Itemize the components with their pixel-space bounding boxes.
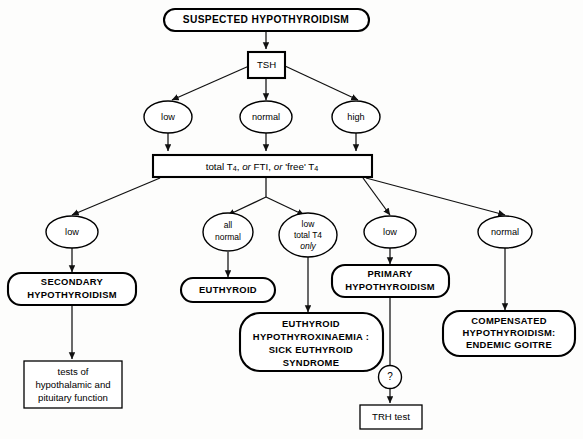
node-label-tests-line2: hypothalamic and xyxy=(35,379,110,390)
node-label-branch-normal: normal xyxy=(491,227,519,237)
node-label-primary-line2: HYPOTHYROIDISM xyxy=(345,281,435,292)
node-label-secondary-line2: HYPOTHYROIDISM xyxy=(27,289,117,300)
connector-panel-to-allnormal xyxy=(228,177,266,215)
t4-sub2: 4 xyxy=(314,164,318,173)
node-label-sick-line4: SYNDROME xyxy=(283,357,340,368)
connector-panel-to-lowtotal xyxy=(266,197,304,215)
node-label-t4-panel: total T4, or FTI, or 'free' T4 xyxy=(206,160,319,173)
node-tests-hypothalamic-pituitary[interactable]: tests of hypothalamic and pituitary func… xyxy=(24,361,122,408)
node-label-compensated-line2: HYPOTHYROIDISM: xyxy=(462,327,555,338)
node-label-compensated-line1: COMPENSATED xyxy=(471,315,547,326)
node-suspected-hypothyroidism[interactable]: SUSPECTED HYPOTHYROIDISM xyxy=(164,9,369,31)
node-branch-all-normal[interactable]: all normal xyxy=(203,213,253,251)
node-branch-low-2[interactable]: low xyxy=(364,216,416,248)
node-label-tsh-high: high xyxy=(347,112,364,122)
node-label-tests-line1: tests of xyxy=(58,366,89,377)
node-label-tsh-normal: normal xyxy=(252,112,280,122)
connector-tsh-to-low xyxy=(172,66,249,100)
node-label-sick-line2: HYPOTHYROXINAEMIA : xyxy=(253,331,369,342)
node-tsh-normal[interactable]: normal xyxy=(240,101,292,133)
node-label-branch-low: low xyxy=(65,227,79,237)
node-tsh-high[interactable]: high xyxy=(332,101,380,133)
t4-part2: FTI, xyxy=(251,160,274,171)
node-label-compensated-line3: ENDEMIC GOITRE xyxy=(466,339,552,350)
node-question-mark[interactable]: ? xyxy=(379,366,402,389)
node-label-low-total-line3: only xyxy=(300,241,316,251)
node-label-secondary-line1: SECONDARY xyxy=(41,276,104,287)
node-label-sick-line3: SICK EUTHYROID xyxy=(269,344,353,355)
node-label-low-total-line1: low xyxy=(302,219,316,229)
connector-tsh-to-high xyxy=(285,66,358,100)
node-secondary-hypothyroidism[interactable]: SECONDARY HYPOTHYROIDISM xyxy=(8,273,136,305)
node-label-question: ? xyxy=(387,371,393,382)
node-label-tests-line3: pituitary function xyxy=(38,392,108,403)
node-tsh[interactable]: TSH xyxy=(248,52,285,78)
t4-part1: total T xyxy=(206,160,233,171)
node-compensated-hypothyroidism[interactable]: COMPENSATED HYPOTHYROIDISM: ENDEMIC GOIT… xyxy=(443,311,575,356)
node-label-euthyroid: EUTHYROID xyxy=(199,284,257,295)
node-label-tsh: TSH xyxy=(257,59,276,70)
node-label-start: SUSPECTED HYPOTHYROIDISM xyxy=(183,14,349,25)
node-sick-euthyroid-syndrome[interactable]: EUTHYROID HYPOTHYROXINAEMIA : SICK EUTHY… xyxy=(240,313,383,371)
node-label-trh: TRH test xyxy=(372,411,410,422)
flowchart-canvas: SUSPECTED HYPOTHYROIDISM TSH low normal … xyxy=(0,0,583,439)
node-label-low-total-line2: total T4 xyxy=(294,230,322,240)
node-label-tsh-low: low xyxy=(161,112,175,122)
node-branch-low[interactable]: low xyxy=(46,216,98,248)
node-label-all-normal-line1: all xyxy=(224,220,233,230)
node-branch-normal[interactable]: normal xyxy=(478,216,532,248)
node-tsh-low[interactable]: low xyxy=(144,101,192,133)
node-euthyroid[interactable]: EUTHYROID xyxy=(181,278,275,302)
t4-part3: 'free' T xyxy=(282,160,314,171)
connector-panel-to-normal xyxy=(366,178,505,215)
connector-panel-to-low xyxy=(72,178,160,215)
node-label-branch-low-2: low xyxy=(383,227,397,237)
flowchart-svg: SUSPECTED HYPOTHYROIDISM TSH low normal … xyxy=(0,0,583,439)
node-label-all-normal-line2: normal xyxy=(215,232,241,242)
node-label-sick-line1: EUTHYROID xyxy=(282,318,340,329)
node-label-primary-line1: PRIMARY xyxy=(368,268,413,279)
node-t4-panel[interactable]: total T4, or FTI, or 'free' T4 xyxy=(153,155,372,177)
node-primary-hypothyroidism[interactable]: PRIMARY HYPOTHYROIDISM xyxy=(332,265,449,297)
node-branch-low-total-t4-only[interactable]: low total T4 only xyxy=(279,213,337,257)
node-trh-test[interactable]: TRH test xyxy=(360,405,422,429)
